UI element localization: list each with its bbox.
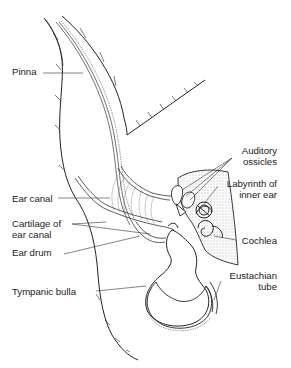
label-auditory-line2: ossicles — [243, 156, 277, 167]
ear-drum — [168, 223, 178, 228]
label-eustachian-line1: Eustachian — [230, 270, 277, 281]
pinna-back-edge — [62, 16, 127, 135]
ear-canal-upper-wall — [133, 224, 165, 243]
label-labyrinth-line1: Labyrinth of — [227, 178, 277, 189]
label-cartilage-line2: ear canal — [12, 229, 51, 240]
head-fur-line — [127, 80, 205, 135]
label-eustachian-line2: tube — [258, 281, 277, 292]
label-tympanic-bulla: Tympanic bulla — [12, 286, 76, 297]
label-ear-canal: Ear canal — [12, 193, 53, 204]
label-cochlea: Cochlea — [242, 235, 277, 246]
label-pinna: Pinna — [12, 66, 37, 77]
label-cartilage-line1: Cartilage of — [12, 218, 61, 229]
label-labyrinth-line2: inner ear — [239, 189, 277, 200]
label-auditory-line1: Auditory — [242, 145, 277, 156]
label-ear-drum: Ear drum — [12, 247, 51, 258]
ear-anatomy-diagram: Pinna Ear canal Cartilage of ear canal E… — [0, 0, 291, 368]
middle-ear-cavity — [146, 230, 209, 326]
tympanic-bulla — [147, 282, 211, 328]
